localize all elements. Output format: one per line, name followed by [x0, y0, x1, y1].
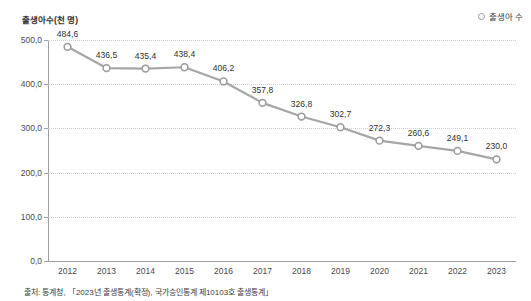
y-axis-tick-mark — [44, 173, 48, 174]
data-point-label: 326,8 — [291, 99, 312, 109]
x-axis-tick-label: 2017 — [253, 266, 272, 276]
y-axis-tick-mark — [44, 40, 48, 41]
data-point-label: 272,3 — [369, 123, 390, 133]
x-axis-tick-label: 2013 — [97, 266, 116, 276]
data-point-marker — [181, 64, 188, 71]
data-point-marker — [220, 78, 227, 85]
data-point-marker — [493, 156, 500, 163]
x-axis-tick-label: 2020 — [370, 266, 389, 276]
data-point-marker — [64, 43, 71, 50]
y-axis-tick-mark — [44, 217, 48, 218]
source-note: 출처: 통계청, 「2023년 출생통계(확정), 국가승인통계 제10103호… — [24, 286, 273, 297]
series-markers — [64, 43, 500, 162]
birth-count-line-chart: 출생아수(천 명) 출생아 수 0,0100,0200,0300,0400,05… — [0, 0, 531, 301]
y-axis-tick-mark — [44, 261, 48, 262]
x-axis-tick-label: 2016 — [214, 266, 233, 276]
y-axis-tick-mark — [44, 128, 48, 129]
data-point-label: 435,4 — [135, 51, 156, 61]
data-point-marker — [259, 99, 266, 106]
x-axis-tick-label: 2014 — [136, 266, 155, 276]
data-point-marker — [142, 65, 149, 72]
data-point-marker — [298, 113, 305, 120]
x-axis-tick-label: 2023 — [487, 266, 506, 276]
x-axis-tick-label: 2015 — [175, 266, 194, 276]
x-axis-tick-label: 2018 — [292, 266, 311, 276]
data-point-label: 357,8 — [252, 85, 273, 95]
data-point-label: 249,1 — [447, 133, 468, 143]
x-axis-tick-label: 2012 — [58, 266, 77, 276]
data-point-label: 302,7 — [330, 109, 351, 119]
data-point-marker — [454, 148, 461, 155]
series-layer — [0, 0, 531, 301]
x-axis-tick-label: 2019 — [331, 266, 350, 276]
data-point-marker — [376, 137, 383, 144]
y-axis-tick-mark — [44, 84, 48, 85]
series-line-path — [68, 47, 497, 160]
data-point-marker — [415, 142, 422, 149]
x-axis-tick-label: 2021 — [409, 266, 428, 276]
data-point-label: 438,4 — [174, 49, 195, 59]
x-axis-tick-label: 2022 — [448, 266, 467, 276]
data-point-label: 406,2 — [213, 63, 234, 73]
data-point-marker — [337, 124, 344, 131]
data-point-label: 484,6 — [57, 29, 78, 39]
data-point-label: 436,5 — [96, 50, 117, 60]
data-point-label: 260,6 — [408, 128, 429, 138]
data-point-marker — [103, 65, 110, 72]
data-point-label: 230,0 — [486, 141, 507, 151]
